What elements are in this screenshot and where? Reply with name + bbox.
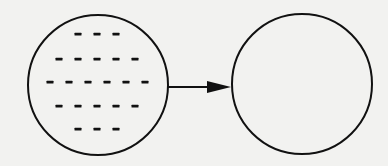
dash-mark bbox=[94, 128, 101, 131]
dash-mark bbox=[142, 81, 149, 84]
dash-mark bbox=[123, 81, 130, 84]
dash-mark bbox=[113, 105, 120, 108]
dash-mark bbox=[66, 81, 73, 84]
dash-mark bbox=[104, 81, 111, 84]
dash-mark bbox=[75, 105, 82, 108]
dash-mark bbox=[94, 58, 101, 61]
target-circle-outline bbox=[232, 14, 372, 154]
dash-mark bbox=[113, 33, 120, 36]
dash-mark bbox=[56, 58, 63, 61]
dash-mark bbox=[75, 33, 82, 36]
diagram-svg bbox=[0, 0, 388, 166]
dash-mark bbox=[113, 128, 120, 131]
dash-mark bbox=[94, 33, 101, 36]
dash-mark bbox=[75, 128, 82, 131]
dash-mark bbox=[132, 105, 139, 108]
dash-mark bbox=[132, 58, 139, 61]
dash-mark bbox=[75, 58, 82, 61]
dash-mark bbox=[56, 105, 63, 108]
dash-mark bbox=[47, 81, 54, 84]
dash-mark bbox=[113, 58, 120, 61]
source-circle-outline bbox=[28, 15, 168, 155]
diagram-canvas bbox=[0, 0, 388, 166]
target-circle bbox=[232, 14, 372, 154]
dash-mark bbox=[85, 81, 92, 84]
dash-mark bbox=[94, 105, 101, 108]
arrowhead-icon bbox=[207, 81, 231, 93]
transfer-arrow bbox=[168, 81, 231, 93]
source-circle bbox=[28, 15, 168, 155]
